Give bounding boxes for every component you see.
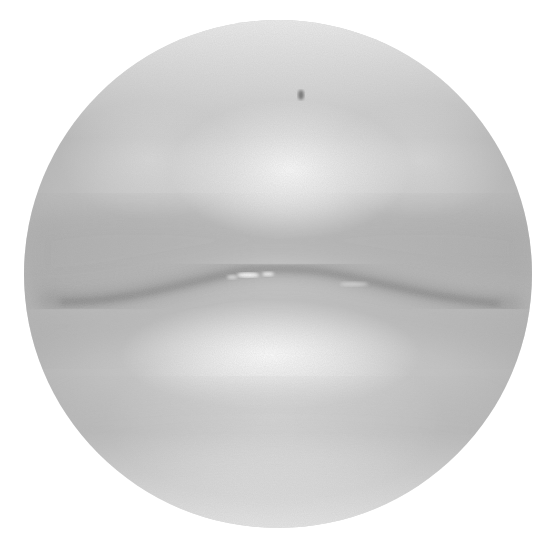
mole-mark <box>298 90 304 100</box>
lips-artwork <box>0 0 550 554</box>
drawing-circle <box>0 0 550 554</box>
lips-drawing <box>0 0 550 554</box>
